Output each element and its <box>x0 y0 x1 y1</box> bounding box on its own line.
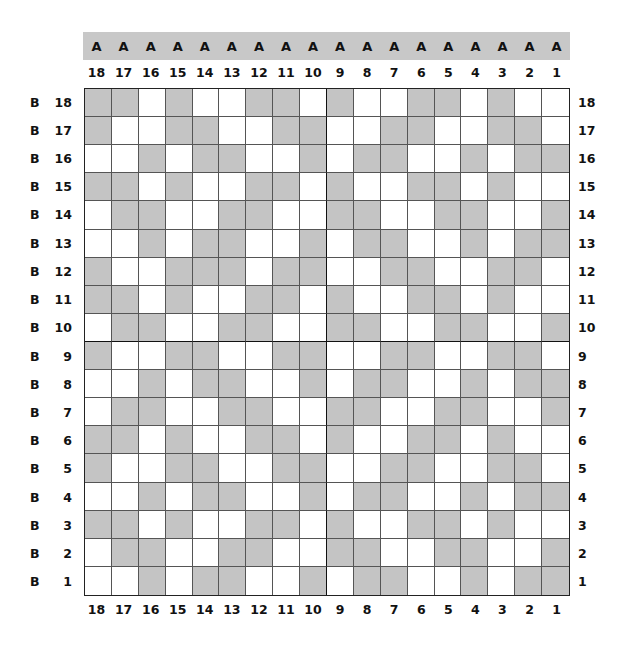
empty-cell <box>300 539 327 567</box>
row-label-left: B14 <box>30 201 80 229</box>
shaded-cell <box>139 314 166 342</box>
row-label-right: 13 <box>578 229 618 257</box>
empty-cell <box>488 370 515 398</box>
empty-cell <box>139 426 166 454</box>
column-number: 11 <box>272 65 299 80</box>
shaded-cell <box>166 454 193 482</box>
empty-cell <box>139 454 166 482</box>
empty-cell <box>273 230 300 258</box>
shaded-cell <box>219 201 246 229</box>
empty-cell <box>246 567 273 595</box>
empty-cell <box>193 173 220 201</box>
row-number: 12 <box>50 264 72 279</box>
shaded-cell <box>354 201 381 229</box>
row-label-left: B8 <box>30 370 80 398</box>
empty-cell <box>246 342 273 370</box>
shaded-cell <box>139 398 166 426</box>
row-label-right: 8 <box>578 370 618 398</box>
shaded-cell <box>381 483 408 511</box>
column-number: 9 <box>327 602 354 617</box>
shaded-cell <box>300 483 327 511</box>
column-number: 10 <box>300 65 327 80</box>
empty-cell <box>85 145 112 173</box>
column-number: 13 <box>218 65 245 80</box>
empty-cell <box>300 286 327 314</box>
empty-cell <box>112 230 139 258</box>
empty-cell <box>166 201 193 229</box>
row-label-right: 2 <box>578 540 618 568</box>
shaded-cell <box>488 258 515 286</box>
empty-cell <box>354 173 381 201</box>
empty-cell <box>408 201 435 229</box>
empty-cell <box>354 454 381 482</box>
shaded-cell <box>435 426 462 454</box>
row-number: 2 <box>578 546 587 561</box>
shaded-cell <box>85 426 112 454</box>
empty-cell <box>246 370 273 398</box>
shaded-cell <box>354 145 381 173</box>
row-label-left: B10 <box>30 314 80 342</box>
shaded-cell <box>166 89 193 117</box>
shaded-cell <box>542 539 569 567</box>
empty-cell <box>461 286 488 314</box>
column-number: 14 <box>191 65 218 80</box>
empty-cell <box>515 89 542 117</box>
empty-cell <box>488 230 515 258</box>
shaded-cell <box>85 511 112 539</box>
shaded-cell <box>435 201 462 229</box>
column-number: 2 <box>516 65 543 80</box>
shaded-cell <box>435 173 462 201</box>
row-number: 5 <box>578 461 587 476</box>
shaded-cell <box>461 483 488 511</box>
empty-cell <box>354 342 381 370</box>
empty-cell <box>166 398 193 426</box>
empty-cell <box>193 89 220 117</box>
empty-cell <box>408 370 435 398</box>
empty-cell <box>381 398 408 426</box>
empty-cell <box>542 511 569 539</box>
empty-cell <box>85 201 112 229</box>
empty-cell <box>219 89 246 117</box>
empty-cell <box>219 454 246 482</box>
empty-cell <box>461 426 488 454</box>
row-label-right: 14 <box>578 201 618 229</box>
shaded-cell <box>300 230 327 258</box>
empty-cell <box>112 454 139 482</box>
shaded-cell <box>193 483 220 511</box>
empty-cell <box>273 145 300 173</box>
shaded-cell <box>112 286 139 314</box>
row-label-left: B7 <box>30 398 80 426</box>
row-letter-b: B <box>30 95 50 110</box>
empty-cell <box>542 89 569 117</box>
column-number: 11 <box>272 602 299 617</box>
shaded-cell <box>327 89 354 117</box>
shaded-cell <box>435 286 462 314</box>
shaded-cell <box>354 567 381 595</box>
shaded-cell <box>219 483 246 511</box>
empty-cell <box>112 117 139 145</box>
shaded-cell <box>112 201 139 229</box>
shaded-cell <box>300 370 327 398</box>
empty-cell <box>354 426 381 454</box>
shaded-cell <box>515 258 542 286</box>
row-letter-b: B <box>30 518 50 533</box>
column-number: 18 <box>83 65 110 80</box>
shaded-cell <box>381 145 408 173</box>
row-number: 7 <box>50 405 72 420</box>
empty-cell <box>193 398 220 426</box>
shaded-cell <box>166 117 193 145</box>
row-number: 15 <box>50 179 72 194</box>
empty-cell <box>488 398 515 426</box>
shaded-cell <box>354 539 381 567</box>
shaded-cell <box>300 117 327 145</box>
shaded-cell <box>246 426 273 454</box>
shaded-cell <box>85 286 112 314</box>
empty-cell <box>435 483 462 511</box>
empty-cell <box>85 567 112 595</box>
column-number: 6 <box>408 602 435 617</box>
shaded-cell <box>435 89 462 117</box>
row-number: 13 <box>578 236 595 251</box>
row-number: 17 <box>578 123 595 138</box>
row-label-left: B5 <box>30 455 80 483</box>
empty-cell <box>273 314 300 342</box>
